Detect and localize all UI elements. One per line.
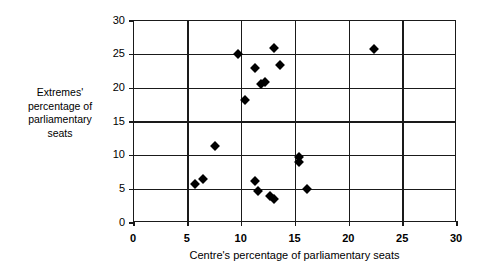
x-axis-title: Centre's percentage of parliamentary sea… [133,249,456,261]
y-axis-tick-label: 10 [99,149,125,160]
x-axis-tick [456,221,458,226]
y-axis-tick-label: 0 [99,217,125,228]
x-axis-tick [187,221,189,226]
y-axis-tick [129,20,134,22]
x-axis-tick-label: 30 [441,233,471,244]
gridline-horizontal [134,189,455,191]
x-axis-tick-label: 10 [226,233,256,244]
gridline-horizontal [134,121,455,123]
x-axis-tick [241,221,243,226]
data-point [302,184,312,194]
data-point [250,176,260,186]
data-point [250,63,260,73]
x-axis-tick-label: 0 [118,233,148,244]
x-axis-tick [402,221,404,226]
x-axis-tick-label: 15 [280,233,310,244]
y-axis-title-line-4: seats [6,127,114,141]
data-point [210,141,220,151]
data-point [275,60,285,70]
plot-area [133,20,456,222]
y-axis-tick-label: 30 [99,15,125,26]
y-axis-title-line-1: Extremes' [6,86,114,100]
gridline-horizontal [134,88,455,90]
data-point [369,44,379,54]
y-axis-tick-label: 5 [99,183,125,194]
scatter-chart-figure: Extremes' percentage of parliamentary se… [0,0,488,278]
y-axis-tick [129,222,134,224]
y-axis-title-line-2: percentage of [6,100,114,114]
x-axis-tick-label: 5 [172,233,202,244]
data-point [269,43,279,53]
y-axis-tick-label: 15 [99,116,125,127]
y-axis-tick [129,121,134,123]
y-axis-title: Extremes' percentage of parliamentary se… [6,86,114,140]
y-axis-tick-label: 20 [99,82,125,93]
x-axis-tick-label: 25 [387,233,417,244]
x-axis-tick-label: 20 [333,233,363,244]
gridline-horizontal [134,54,455,56]
data-point [253,186,263,196]
y-axis-tick [129,189,134,191]
y-axis-tick [129,88,134,90]
y-axis-tick [129,155,134,157]
x-axis-tick [295,221,297,226]
y-axis-title-line-3: parliamentary [6,113,114,127]
x-axis-tick [349,221,351,226]
y-axis-tick [129,54,134,56]
y-axis-tick-label: 25 [99,48,125,59]
